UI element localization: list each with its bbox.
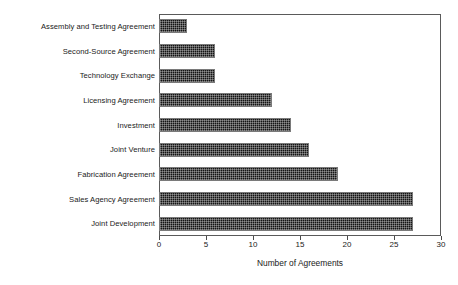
- bar-row: [159, 113, 441, 138]
- category-label: Assembly and Testing Agreement: [0, 22, 155, 31]
- x-tick-label: 0: [157, 240, 161, 250]
- bar: [159, 69, 215, 83]
- bar: [159, 143, 309, 157]
- x-tick-label: 30: [437, 240, 446, 250]
- bar-row: [159, 211, 441, 236]
- bar: [159, 118, 291, 132]
- bar-row: [159, 88, 441, 113]
- x-tick-label: 25: [390, 240, 399, 250]
- x-tick-label: 5: [204, 240, 208, 250]
- category-label: Investment: [0, 121, 155, 130]
- bar-row: [159, 187, 441, 212]
- category-label: Joint Venture: [0, 145, 155, 154]
- category-label: Fabrication Agreement: [0, 170, 155, 179]
- category-axis-labels: Assembly and Testing AgreementSecond-Sou…: [0, 14, 155, 236]
- bar: [159, 217, 413, 231]
- bar: [159, 19, 187, 33]
- category-label: Second-Source Agreement: [0, 47, 155, 56]
- x-tick-label: 10: [249, 240, 258, 250]
- bar-row: [159, 162, 441, 187]
- bar: [159, 192, 413, 206]
- bar: [159, 93, 272, 107]
- bar-row: [159, 39, 441, 64]
- bars-layer: [159, 14, 441, 236]
- bar-chart: Assembly and Testing AgreementSecond-Sou…: [0, 0, 458, 285]
- bar: [159, 167, 338, 181]
- bar-row: [159, 63, 441, 88]
- x-tick-label: 20: [343, 240, 352, 250]
- bar-row: [159, 137, 441, 162]
- x-axis-title: Number of Agreements: [159, 258, 441, 269]
- bar-row: [159, 14, 441, 39]
- x-tick-label: 15: [296, 240, 305, 250]
- category-label: Licensing Agreement: [0, 96, 155, 105]
- category-label: Joint Development: [0, 219, 155, 228]
- category-label: Sales Agency Agreement: [0, 195, 155, 204]
- bar: [159, 44, 215, 58]
- category-label: Technology Exchange: [0, 71, 155, 80]
